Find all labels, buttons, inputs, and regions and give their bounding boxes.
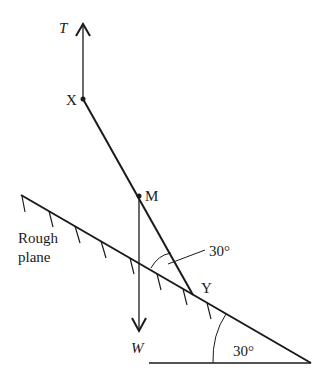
point-x-label: X [66, 92, 77, 108]
point-m-label: M [145, 188, 158, 204]
rod-angle-arc [151, 253, 171, 268]
inclined-plane [21, 195, 311, 363]
point-y-label: Y [201, 280, 212, 296]
incline-angle-label: 30° [233, 343, 254, 359]
weight-label: W [131, 340, 145, 356]
rough-plane-label-line2: plane [18, 249, 51, 265]
tension-label: T [59, 20, 69, 36]
rod-angle-leader [168, 250, 205, 264]
rough-plane-label-line1: Rough [18, 230, 59, 246]
rod-angle-label: 30° [209, 243, 230, 259]
tension-arrow [76, 24, 90, 99]
incline-angle-arc [213, 314, 226, 363]
force-diagram: T X M W 30° 30° Y Rough plane [0, 0, 333, 390]
